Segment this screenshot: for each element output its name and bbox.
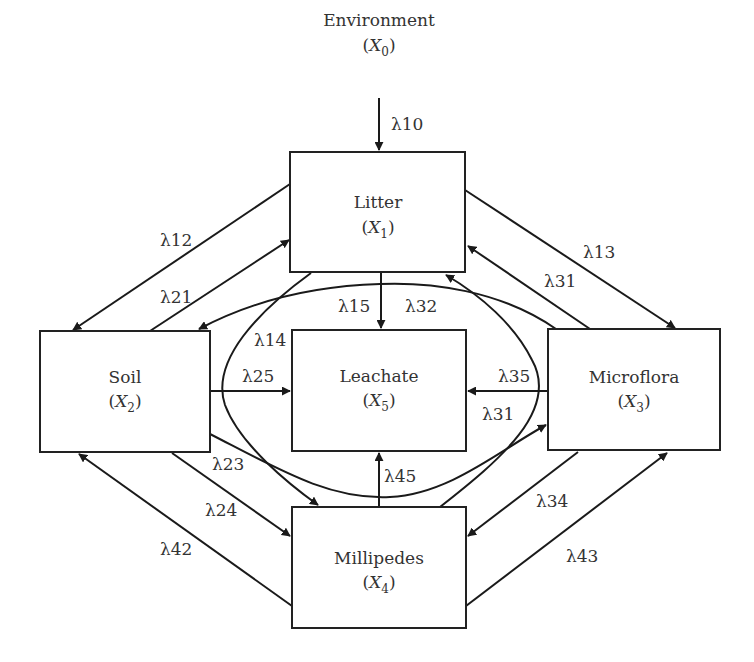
label-e35: λ35 bbox=[498, 366, 530, 386]
edge-e32 bbox=[199, 284, 556, 329]
label-e42: λ42 bbox=[160, 539, 192, 559]
node-litter-name: Litter bbox=[354, 192, 403, 212]
label-e21: λ21 bbox=[160, 287, 192, 307]
label-e43: λ43 bbox=[566, 546, 598, 566]
compartment-diagram: Environment (X0) Litter (X1) Soil (X2) M… bbox=[0, 0, 754, 662]
label-e25: λ25 bbox=[242, 366, 274, 386]
label-e31a: λ31 bbox=[544, 271, 576, 291]
edge-e21 bbox=[150, 240, 289, 331]
label-e34: λ34 bbox=[536, 491, 568, 511]
label-e10: λ10 bbox=[391, 114, 423, 134]
edge-e13 bbox=[465, 190, 675, 328]
label-e45: λ45 bbox=[384, 466, 416, 486]
label-e14: λ14 bbox=[254, 330, 286, 350]
label-e24: λ24 bbox=[205, 500, 237, 520]
node-environment-var: (X0) bbox=[362, 35, 395, 59]
node-microflora-box bbox=[548, 329, 720, 450]
node-environment-name: Environment bbox=[323, 10, 435, 30]
label-e31b: λ31 bbox=[482, 404, 514, 424]
node-litter-box bbox=[290, 152, 465, 272]
label-e13: λ13 bbox=[583, 242, 615, 262]
node-leachate-name: Leachate bbox=[340, 366, 419, 386]
edge-e42 bbox=[79, 454, 292, 606]
edge-e43 bbox=[466, 453, 667, 606]
label-e32: λ32 bbox=[405, 296, 437, 316]
node-microflora-name: Microflora bbox=[589, 367, 680, 387]
edge-e12 bbox=[73, 184, 290, 330]
label-e12: λ12 bbox=[160, 230, 192, 250]
label-e23: λ23 bbox=[212, 454, 244, 474]
node-soil-name: Soil bbox=[109, 367, 142, 387]
label-e15: λ15 bbox=[338, 296, 370, 316]
node-millipedes-name: Millipedes bbox=[334, 548, 424, 568]
